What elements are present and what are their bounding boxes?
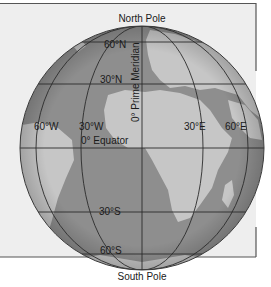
north-pole-label: North Pole (118, 13, 166, 24)
equator-label: 0° Equator (81, 135, 129, 146)
longitude-label-60e: 60°E (225, 121, 247, 132)
longitude-label-30e: 30°E (184, 121, 206, 132)
latitude-label-60s: 60°S (100, 245, 122, 256)
south-pole-label: South Pole (118, 271, 167, 282)
latitude-label-60n: 60°N (104, 39, 126, 50)
latitude-label-30n: 30°N (100, 74, 122, 85)
prime-meridian-label: 0° Prime Meridian (130, 42, 141, 122)
longitude-label-60w: 60°W (34, 121, 59, 132)
latitude-label-30s: 30°S (99, 206, 121, 217)
globe-diagram: North Pole South Pole 60°N 30°N 30°S 60°… (0, 0, 271, 287)
longitude-label-30w: 30°W (79, 121, 104, 132)
